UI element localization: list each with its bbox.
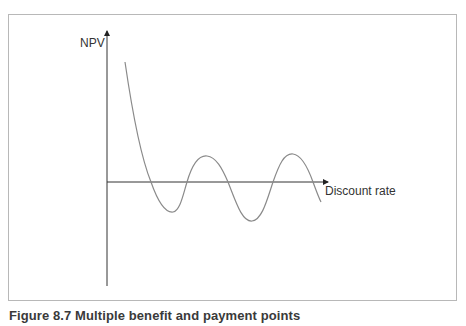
y-axis-label: NPV bbox=[80, 36, 105, 50]
x-axis-label: Discount rate bbox=[325, 184, 396, 198]
figure-caption: Figure 8.7 Multiple benefit and payment … bbox=[9, 308, 300, 323]
npv-curve bbox=[125, 62, 321, 221]
npv-chart bbox=[0, 0, 466, 326]
